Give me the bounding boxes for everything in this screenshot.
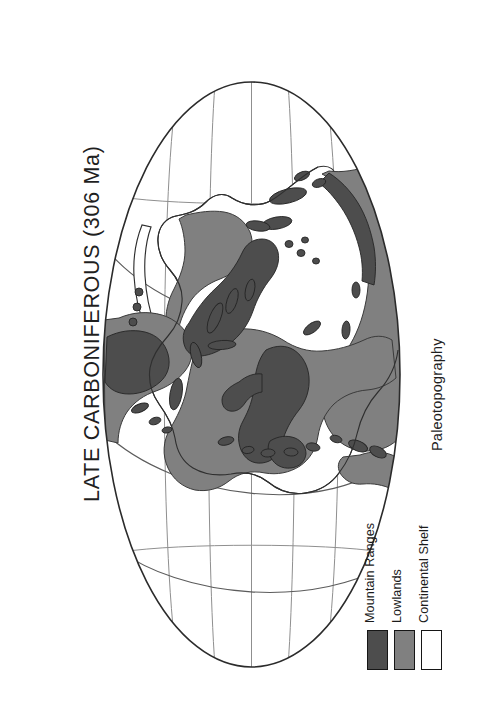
legend-swatch-continental-shelf	[421, 630, 442, 670]
legend-swatch-lowlands	[394, 630, 415, 670]
legend-label-lowlands: Lowlands	[390, 569, 404, 623]
legend-swatch-mountain-ranges	[367, 630, 388, 670]
map-legend: Mountain Ranges Lowlands Continental She…	[367, 520, 477, 670]
legend-label-mountain-ranges: Mountain Ranges	[363, 523, 377, 623]
legend-label-continental-shelf: Continental Shelf	[417, 525, 431, 623]
paleogeographic-map-figure: LATE CARBONIFEROUS (306 Ma) Paleotopogra…	[0, 0, 484, 709]
